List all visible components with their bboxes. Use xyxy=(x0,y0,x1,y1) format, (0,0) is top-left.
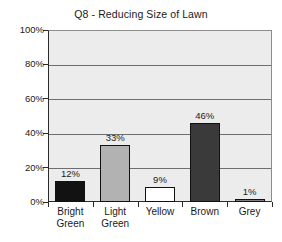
chart-title: Q8 - Reducing Size of Lawn xyxy=(0,8,282,20)
bar-value-label: 1% xyxy=(243,186,257,197)
bar[interactable] xyxy=(145,187,175,202)
bar-slot: 9% xyxy=(138,30,183,202)
y-tick-label: 80% xyxy=(4,58,44,69)
x-tick-mark xyxy=(48,202,49,207)
y-tick-label: 60% xyxy=(4,93,44,104)
y-tick-label: 40% xyxy=(4,127,44,138)
bar-value-label: 9% xyxy=(153,174,167,185)
bar[interactable] xyxy=(100,145,130,202)
bar[interactable] xyxy=(235,199,265,202)
bar[interactable] xyxy=(55,181,85,202)
bar-slot: 12% xyxy=(48,30,93,202)
bars-layer: 12%33%9%46%1% xyxy=(48,30,272,202)
bar-value-label: 46% xyxy=(195,110,214,121)
x-tick-label-line: Grey xyxy=(220,206,280,218)
bar-slot: 1% xyxy=(227,30,272,202)
bar-chart: Q8 - Reducing Size of Lawn 0%20%40%60%80… xyxy=(0,0,282,242)
x-tick-label: Grey xyxy=(220,206,280,218)
bar[interactable] xyxy=(190,123,220,202)
bar-slot: 46% xyxy=(182,30,227,202)
x-tick-label-line: Green xyxy=(85,218,145,230)
bar-slot: 33% xyxy=(93,30,138,202)
y-tick-label: 100% xyxy=(4,24,44,35)
y-tick-label: 20% xyxy=(4,162,44,173)
bar-value-label: 33% xyxy=(106,132,125,143)
y-tick-label: 0% xyxy=(4,196,44,207)
bar-value-label: 12% xyxy=(61,168,80,179)
